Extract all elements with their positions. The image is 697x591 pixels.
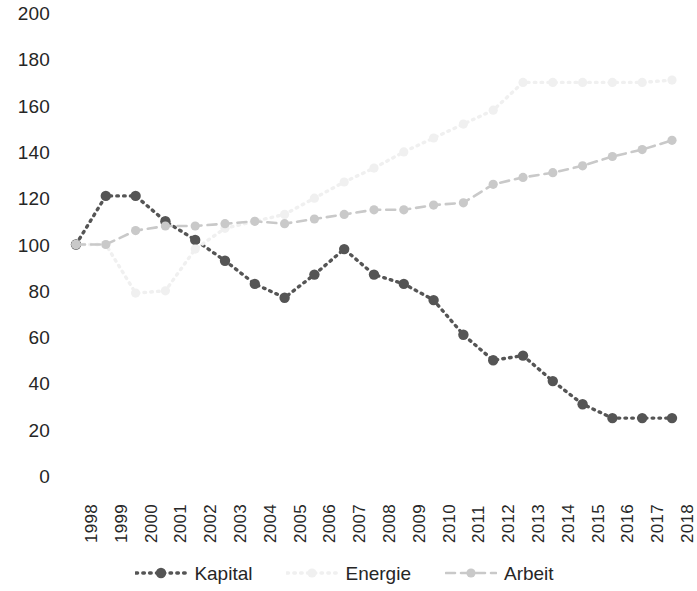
x-axis-tick-label: 2008 — [381, 504, 398, 543]
x-axis-tick-label: 2013 — [530, 504, 547, 543]
chart-legend: KapitalEnergieArbeit — [0, 555, 689, 591]
legend-item-arbeit[interactable]: Arbeit — [445, 564, 554, 583]
legend-label: Energie — [345, 564, 411, 583]
x-axis-tick-label: 2010 — [441, 504, 458, 543]
legend-item-energie[interactable]: Energie — [286, 564, 411, 583]
x-axis-tick-label: 2003 — [232, 504, 249, 543]
x-axis-tick-label: 2002 — [202, 504, 219, 543]
x-axis-tick-label: 1998 — [83, 504, 100, 543]
x-axis-tick-label: 2007 — [351, 504, 368, 543]
x-axis-tick-label: 2006 — [321, 504, 338, 543]
x-axis-tick-label: 2016 — [619, 504, 636, 543]
x-axis-tick-label: 2014 — [560, 504, 577, 543]
x-axis-tick-label: 2015 — [590, 504, 607, 543]
x-axis-tick-label: 2004 — [262, 504, 279, 543]
legend-label: Kapital — [194, 564, 252, 583]
x-axis-tick-label: 2001 — [172, 504, 189, 543]
legend-item-kapital[interactable]: Kapital — [135, 564, 252, 583]
x-axis-tick-label: 1999 — [113, 504, 130, 543]
x-axis-tick-label: 2012 — [500, 504, 517, 543]
x-axis-tick-label: 2000 — [143, 504, 160, 543]
x-axis-tick-label: 2011 — [470, 505, 487, 543]
legend-label: Arbeit — [504, 564, 554, 583]
x-axis-tick-label: 2018 — [679, 504, 696, 543]
x-axis-tick-label: 2009 — [411, 504, 428, 543]
dotted-line-marker-icon — [135, 566, 187, 580]
dotted-line-icon — [286, 566, 338, 580]
dashed-line-marker-icon — [445, 566, 497, 580]
x-axis-tick-label: 2017 — [649, 504, 666, 543]
x-axis-tick-label: 2005 — [292, 504, 309, 543]
